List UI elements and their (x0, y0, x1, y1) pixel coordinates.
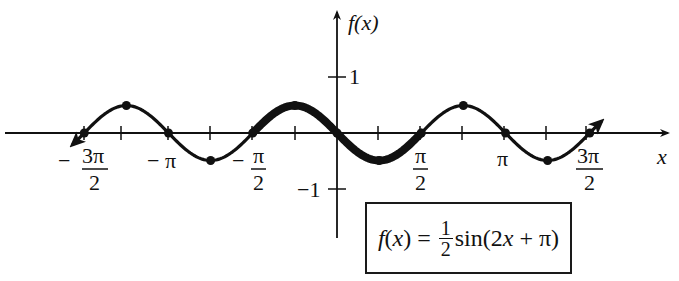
svg-text:π: π (415, 143, 426, 168)
formula-lhs: f(x) = (378, 225, 437, 252)
sine-graph: f(x) x 1 −1 − 3π 2 − π − π 2 π 2 π 3π 2 (0, 0, 679, 281)
y-tick-label-neg1: −1 (297, 177, 320, 202)
key-point (417, 129, 426, 138)
svg-text:3π: 3π (82, 143, 104, 168)
key-point (206, 156, 215, 165)
key-point (543, 156, 552, 165)
key-point (333, 129, 342, 138)
key-point (501, 129, 510, 138)
x-tick-label-neg-pi: − π (147, 148, 176, 173)
formula-rhs: sin(2x + π) (455, 225, 559, 252)
fraction-denominator: 2 (439, 239, 453, 259)
key-point (164, 129, 173, 138)
y-tick-label-1: 1 (349, 64, 360, 89)
key-point (248, 129, 257, 138)
key-point (122, 101, 131, 110)
x-tick-label-pi: π (497, 146, 508, 171)
svg-text:2: 2 (415, 170, 426, 195)
x-tick-label-neg-3pi-over-2: − 3π 2 (58, 143, 108, 195)
svg-text:2: 2 (89, 170, 100, 195)
svg-text:π: π (253, 143, 264, 168)
svg-text:−: − (232, 148, 244, 173)
x-axis-label: x (656, 144, 667, 169)
key-point (375, 156, 384, 165)
svg-text:−: − (58, 148, 70, 173)
fraction-numerator: 1 (439, 218, 453, 239)
x-tick-label-neg-pi-over-2: − π 2 (232, 143, 266, 195)
svg-text:3π: 3π (577, 143, 599, 168)
formula-box: f(x) = 1 2 sin(2x + π) (365, 202, 572, 274)
key-point (459, 101, 468, 110)
x-tick-label-3pi-over-2: 3π 2 (576, 143, 603, 195)
svg-text:2: 2 (253, 170, 264, 195)
svg-text:2: 2 (584, 170, 595, 195)
x-tick-label-pi-over-2: π 2 (413, 143, 428, 195)
key-point (290, 101, 299, 110)
formula-fraction: 1 2 (439, 218, 453, 259)
key-point (585, 129, 594, 138)
key-point (80, 129, 89, 138)
y-axis-label: f(x) (348, 10, 379, 35)
